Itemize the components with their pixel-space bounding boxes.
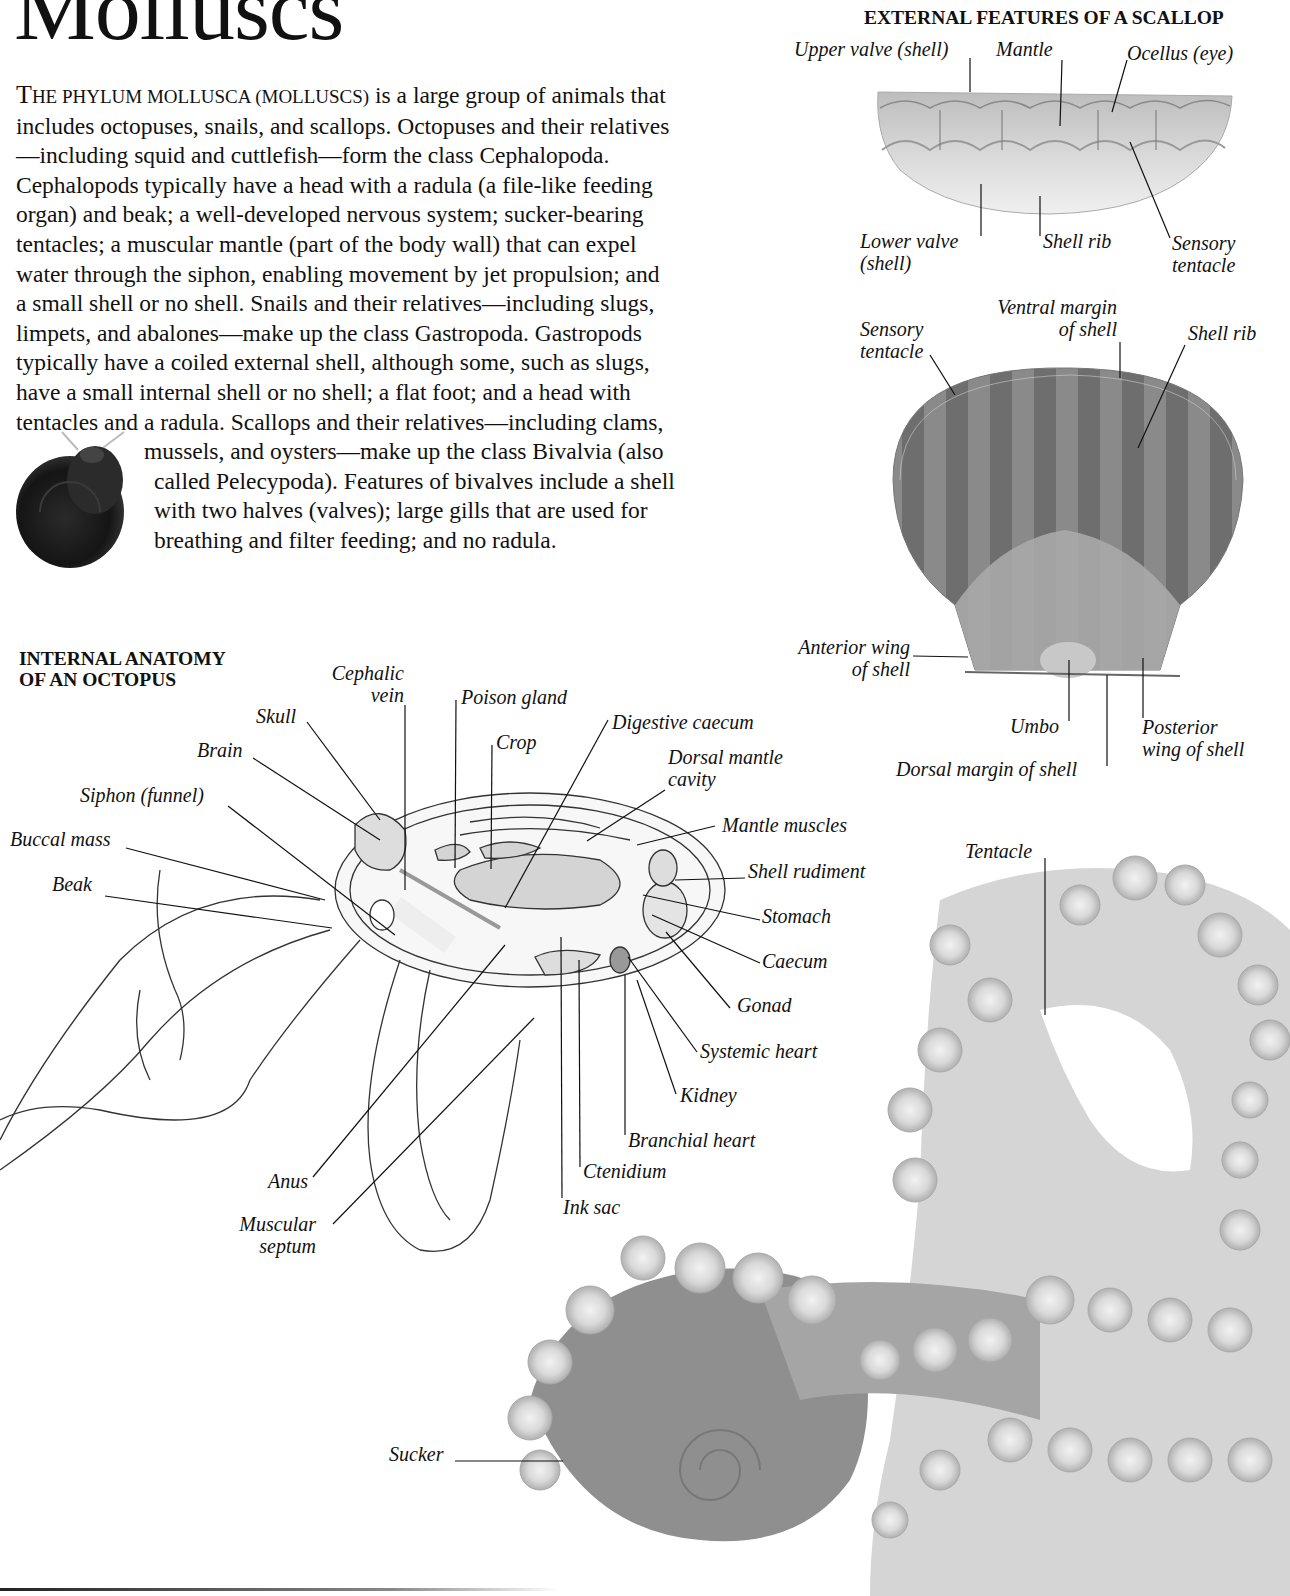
intro-line: a small shell or no shell. Snails and th…	[16, 289, 806, 319]
label-dorsal-margin: Dorsal margin of shell	[896, 758, 1077, 780]
octopus-tentacle-photo	[508, 856, 1290, 1596]
intro-line: Cephalopods typically have a head with a…	[16, 171, 806, 201]
intro-line: typically have a coiled external shell, …	[16, 348, 806, 378]
intro-line: tentacles and a radula. Scallops and the…	[16, 408, 806, 438]
scallop-top-view	[893, 368, 1243, 678]
label-dorsal-mantle-cavity: Dorsal mantlecavity	[668, 746, 783, 790]
label-ocellus: Ocellus (eye)	[1127, 42, 1233, 64]
intro-line: breathing and filter feeding; and no rad…	[16, 526, 806, 556]
label-shell-rib-top: Shell rib	[1188, 322, 1256, 344]
label-shell-rib-side: Shell rib	[1043, 230, 1111, 252]
label-sucker: Sucker	[389, 1443, 443, 1465]
intro-paragraph: THE PHYLUM MOLLUSCA (MOLLUSCS) is a larg…	[16, 80, 806, 556]
label-sensory-tentacle-top: Sensorytentacle	[860, 318, 923, 362]
label-caecum: Caecum	[762, 950, 828, 972]
intro-line: with two halves (valves); large gills th…	[16, 496, 806, 526]
intro-line: called Pelecypoda). Features of bivalves…	[16, 467, 806, 497]
label-anus: Anus	[268, 1170, 308, 1192]
label-anterior-wing: Anterior wingof shell	[760, 636, 910, 680]
label-shell-rudiment: Shell rudiment	[748, 860, 865, 882]
label-lower-valve: Lower valve(shell)	[860, 230, 958, 274]
label-siphon: Siphon (funnel)	[80, 784, 204, 806]
intro-line: tentacles; a muscular mantle (part of th…	[16, 230, 806, 260]
label-crop: Crop	[496, 731, 536, 753]
intro-line-1: THE PHYLUM MOLLUSCA (MOLLUSCS) is a larg…	[16, 80, 806, 112]
label-stomach: Stomach	[762, 905, 831, 927]
label-cephalic-vein: Cephalicvein	[300, 662, 404, 706]
label-ventral-margin: Ventral marginof shell	[960, 296, 1117, 340]
label-kidney: Kidney	[680, 1084, 737, 1106]
label-branchial-heart: Branchial heart	[628, 1129, 755, 1151]
label-skull: Skull	[256, 705, 296, 727]
label-digestive-caecum: Digestive caecum	[612, 711, 754, 733]
label-buccal-mass: Buccal mass	[10, 828, 111, 850]
scallop-side-view	[878, 92, 1232, 214]
scallop-heading: External features of a scallop	[864, 7, 1224, 28]
label-sensory-tentacle-side: Sensorytentacle	[1172, 232, 1235, 276]
label-gonad: Gonad	[737, 994, 791, 1016]
intro-line: limpets, and abalones—make up the class …	[16, 319, 806, 349]
label-ink-sac: Ink sac	[563, 1196, 620, 1218]
label-tentacle: Tentacle	[965, 840, 1032, 862]
intro-line: includes octopuses, snails, and scallops…	[16, 112, 806, 142]
intro-line: water through the siphon, enabling movem…	[16, 260, 806, 290]
octopus-heading: Internal anatomyof an octopus	[19, 648, 226, 690]
label-systemic-heart: Systemic heart	[700, 1040, 817, 1062]
label-mantle-muscles: Mantle muscles	[722, 814, 847, 836]
label-upper-valve: Upper valve (shell)	[794, 38, 948, 60]
label-ctenidium: Ctenidium	[583, 1160, 666, 1182]
intro-line: organ) and beak; a well-developed nervou…	[16, 200, 806, 230]
label-mantle: Mantle	[996, 38, 1053, 60]
octopus-anatomy-drawing	[0, 793, 725, 1251]
label-poison-gland: Poison gland	[461, 686, 567, 708]
intro-line: have a small internal shell or no shell;…	[16, 378, 806, 408]
label-brain: Brain	[197, 739, 243, 761]
bottom-rule	[0, 1588, 560, 1591]
intro-line: —including squid and cuttlefish—form the…	[16, 141, 806, 171]
label-posterior-wing: Posteriorwing of shell	[1142, 716, 1244, 760]
label-umbo: Umbo	[1010, 715, 1059, 737]
intro-line: mussels, and oysters—make up the class B…	[16, 437, 806, 467]
label-muscular-septum: Muscularseptum	[212, 1213, 316, 1257]
page-title: Molluscs	[14, 0, 343, 54]
label-beak: Beak	[52, 873, 92, 895]
